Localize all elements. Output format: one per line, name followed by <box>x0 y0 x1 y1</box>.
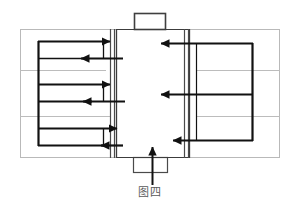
left-flow-row-5 <box>38 128 117 146</box>
left-flow-row-1 <box>38 41 110 58</box>
right-flow-row-2 <box>161 95 253 141</box>
left-vertical-channel <box>111 29 115 158</box>
top-outlet-nozzle <box>135 14 166 30</box>
left-serpentine-channel <box>38 41 125 146</box>
bottom-inlet-nozzle <box>134 158 168 173</box>
figure-container: 图四 <box>0 0 299 216</box>
left-hairlines <box>20 71 110 117</box>
right-flow-row-1 <box>161 43 253 95</box>
right-serpentine-channel <box>161 43 253 141</box>
figure-diagram <box>0 0 299 216</box>
figure-caption: 图四 <box>0 186 299 200</box>
left-flow-row-3 <box>38 84 110 101</box>
